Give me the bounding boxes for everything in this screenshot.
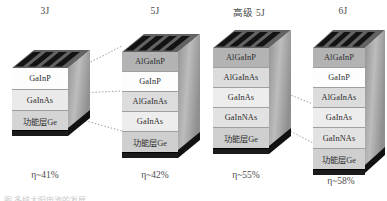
base-contact bbox=[213, 148, 269, 154]
efficiency-6j: η~58% bbox=[308, 176, 374, 186]
layer-gainas[interactable]: GaInAs bbox=[122, 111, 178, 131]
layer-column: AlGaInP GaInP AlGaInAs GaInAs GaInNAs 功能… bbox=[313, 48, 365, 175]
layer-gainas[interactable]: GaInAs bbox=[213, 87, 269, 107]
efficiency-5j: η~42% bbox=[122, 170, 188, 180]
layer-gainp[interactable]: GaInP bbox=[12, 68, 68, 89]
base-contact bbox=[122, 152, 178, 158]
layer-gainnas[interactable]: GaInNAs bbox=[213, 107, 269, 127]
efficiency-3j: η~41% bbox=[12, 170, 78, 180]
cell-header-6j: 6J bbox=[310, 6, 376, 16]
layer-algainp[interactable]: AlGaInP bbox=[122, 52, 178, 71]
layer-algainp[interactable]: AlGaInP bbox=[313, 48, 365, 67]
layer-algainas[interactable]: AlGaInAs bbox=[213, 67, 269, 87]
cell-stack-3j[interactable]: GaInP GaInAs 功能层Ge bbox=[12, 48, 90, 136]
layer-gainp[interactable]: GaInP bbox=[313, 67, 365, 87]
layer-gainas[interactable]: GaInAs bbox=[313, 107, 365, 127]
layer-algainas[interactable]: AlGaInAs bbox=[122, 91, 178, 111]
figure-caption: 图 多结太阳电池的发展 bbox=[4, 194, 387, 201]
base-contact bbox=[313, 169, 365, 175]
layer-algainp[interactable]: AlGaInP bbox=[213, 48, 269, 67]
layer-algainas[interactable]: AlGaInAs bbox=[313, 87, 365, 107]
layer-gainas[interactable]: GaInAs bbox=[12, 89, 68, 110]
side-face-shade bbox=[365, 30, 385, 169]
layer-gainp[interactable]: GaInP bbox=[122, 71, 178, 91]
layer-gainnas[interactable]: GaInNAs bbox=[313, 127, 365, 148]
figure-canvas: 3J 5J 高级 5J 6J bbox=[0, 0, 387, 201]
cell-stack-advanced-5j[interactable]: AlGaInP AlGaInAs GaInAs GaInNAs 功能层Ge bbox=[213, 28, 291, 154]
cell-stack-6j[interactable]: AlGaInP GaInP AlGaInAs GaInAs GaInNAs 功能… bbox=[313, 28, 385, 173]
layer-column: AlGaInP GaInP AlGaInAs GaInAs 功能层Ge bbox=[122, 52, 178, 158]
layer-ge[interactable]: 功能层Ge bbox=[213, 127, 269, 148]
cell-stack-5j[interactable]: AlGaInP GaInP AlGaInAs GaInAs 功能层Ge bbox=[122, 32, 200, 158]
efficiency-advanced-5j: η~55% bbox=[213, 170, 279, 180]
layer-ge[interactable]: 功能层Ge bbox=[313, 148, 365, 169]
layer-ge[interactable]: 功能层Ge bbox=[12, 110, 68, 130]
layer-ge[interactable]: 功能层Ge bbox=[122, 131, 178, 152]
layer-column: AlGaInP AlGaInAs GaInAs GaInNAs 功能层Ge bbox=[213, 48, 269, 154]
cell-header-3j: 3J bbox=[12, 6, 78, 16]
base-contact bbox=[12, 130, 68, 136]
layer-column: GaInP GaInAs 功能层Ge bbox=[12, 68, 68, 136]
cell-header-5j: 5J bbox=[122, 6, 188, 16]
cell-header-advanced-5j: 高级 5J bbox=[210, 5, 288, 19]
